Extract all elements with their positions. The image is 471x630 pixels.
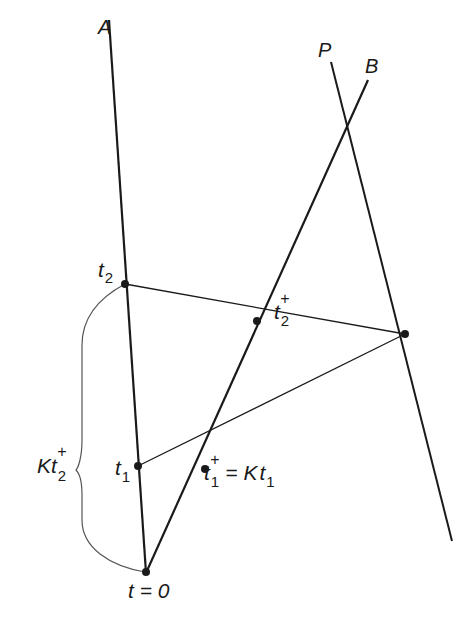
label-t2: t2 — [98, 258, 113, 286]
label-p: P — [318, 39, 332, 61]
label-b: B — [365, 55, 378, 77]
worldline-p — [331, 62, 452, 541]
label-brace: Kt2+ — [37, 443, 67, 484]
point-t2 — [121, 280, 129, 288]
label-a: A — [97, 16, 111, 38]
label-t1: t1 — [115, 456, 130, 485]
worldline-b — [146, 80, 368, 573]
label-t1-plus: t1+ = Kt1 — [204, 451, 275, 490]
point-t0 — [142, 568, 150, 576]
label-t2-plus: t2+ — [274, 290, 290, 329]
brace-kt2-plus — [76, 284, 145, 572]
signal-t2-out — [125, 284, 405, 334]
point-t2-plus — [253, 317, 261, 325]
signal-t1-out — [138, 334, 405, 466]
spacetime-diagram: A P B t2 t2+ t1 t1+ = Kt1 t = 0 Kt2+ — [0, 0, 471, 630]
point-t1 — [134, 462, 142, 470]
label-t0: t = 0 — [128, 579, 170, 602]
point-reflection — [401, 330, 409, 338]
worldline-a — [109, 20, 146, 573]
